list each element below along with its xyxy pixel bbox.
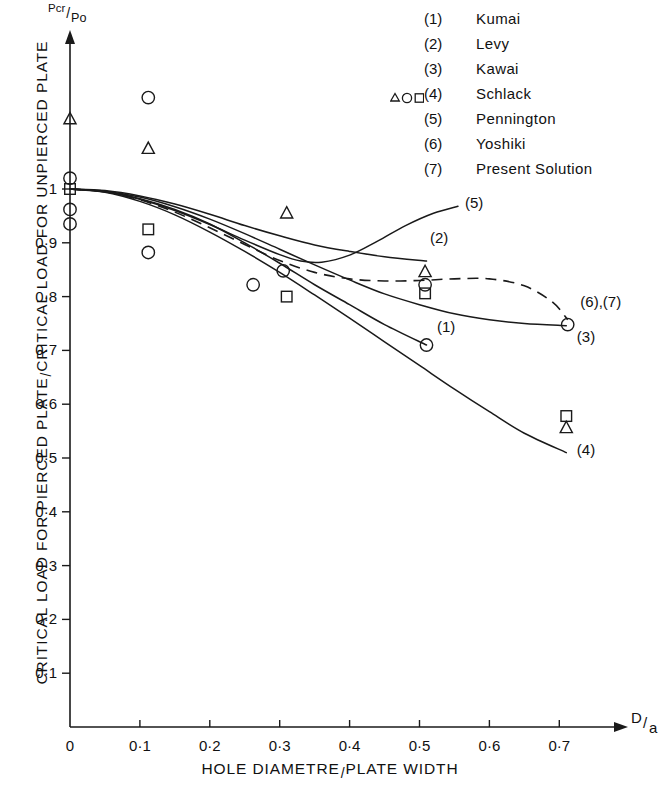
data-marker-circle bbox=[419, 279, 431, 291]
x-axis-arrow-label: D/a bbox=[631, 709, 658, 736]
data-marker-circle bbox=[247, 279, 259, 291]
legend-item: (2)Levy bbox=[424, 31, 659, 56]
legend-item-label: Kumai bbox=[476, 6, 521, 31]
legend-circle-icon bbox=[402, 93, 411, 102]
legend-item: (7)Present Solution bbox=[424, 156, 659, 181]
data-marker-circle bbox=[142, 91, 154, 103]
legend-item-number: (2) bbox=[424, 31, 458, 56]
x-axis-title-part2: PLATE WIDTH bbox=[346, 760, 459, 777]
x-axis-tick-label: 0·5 bbox=[409, 737, 431, 754]
data-curve bbox=[70, 189, 568, 320]
tick-labels-group: 10·90·80·70·60·50·40·30·20·100·10·20·30·… bbox=[35, 180, 658, 754]
data-marker-circle bbox=[561, 318, 573, 330]
curve-label: (6),(7) bbox=[580, 293, 621, 310]
legend-item-label: Present Solution bbox=[476, 156, 592, 181]
curve-label: (5) bbox=[465, 194, 483, 211]
x-axis-arrow-denominator: a bbox=[649, 719, 658, 736]
y-axis-arrow-denominator: Po bbox=[70, 11, 86, 25]
legend-item-label: Levy bbox=[476, 31, 509, 56]
x-axis-tick-label: 0·4 bbox=[339, 737, 361, 754]
legend-item-label: Pennington bbox=[476, 106, 556, 131]
x-axis-tick-label: 0 bbox=[66, 737, 74, 754]
legend-item-number: (5) bbox=[424, 106, 458, 131]
data-marker-triangle bbox=[419, 265, 431, 276]
x-axis-tick-label: 0·7 bbox=[548, 737, 570, 754]
curve-label: (2) bbox=[430, 229, 448, 246]
data-curve bbox=[70, 189, 458, 263]
x-axis-tick-label: 0·2 bbox=[199, 737, 221, 754]
legend-item: (4)Schlack bbox=[424, 81, 659, 106]
legend-item: (1)Kumai bbox=[424, 6, 659, 31]
legend-item-number: (4) bbox=[424, 81, 458, 106]
legend-item-number: (1) bbox=[424, 6, 458, 31]
legend-item: (6)Yoshiki bbox=[424, 131, 659, 156]
legend-item: (3)Kawai bbox=[424, 56, 659, 81]
x-axis-arrow-slash: / bbox=[643, 714, 648, 731]
x-axis-arrow-numerator: D bbox=[631, 709, 642, 726]
legend-item-label: Yoshiki bbox=[476, 131, 526, 156]
chart-page: 10·90·80·70·60·50·40·30·20·100·10·20·30·… bbox=[0, 0, 661, 795]
data-marker-triangle bbox=[560, 421, 572, 432]
legend-item-label: Schlack bbox=[476, 81, 531, 106]
y-axis-title-slash: / bbox=[39, 372, 55, 378]
legend-square-icon bbox=[415, 94, 423, 102]
curves-group bbox=[70, 189, 568, 453]
legend-item: (5)Pennington bbox=[424, 106, 659, 131]
legend-marker-symbols bbox=[390, 87, 424, 101]
legend-item-label: Kawai bbox=[476, 56, 519, 81]
legend-item-number: (6) bbox=[424, 131, 458, 156]
y-axis-title-part1: CRITICAL LOAD FOR PIERCED PLATE bbox=[33, 378, 50, 685]
x-axis-tick-label: 0·6 bbox=[479, 737, 501, 754]
x-axis-title-part1: HOLE DIAMETRE bbox=[201, 760, 339, 777]
curve-label: (3) bbox=[577, 328, 595, 345]
legend: (1)Kumai(2)Levy(3)Kawai(4)Schlack(5)Penn… bbox=[424, 6, 659, 181]
data-marker-circle bbox=[142, 246, 154, 258]
data-marker-square bbox=[143, 224, 154, 235]
y-axis-title-part2: CRITICAL LOAD FOR UNPIERCED PLATE bbox=[33, 41, 50, 372]
data-curve bbox=[70, 189, 426, 345]
data-marker-square bbox=[281, 291, 292, 302]
curve-label: (4) bbox=[577, 441, 595, 458]
y-axis-arrow-numerator: Pcr bbox=[48, 2, 66, 14]
data-marker-triangle bbox=[142, 142, 154, 153]
legend-item-number: (7) bbox=[424, 156, 458, 181]
curve-label: (1) bbox=[437, 318, 455, 335]
legend-item-number: (3) bbox=[424, 56, 458, 81]
legend-triangle-icon bbox=[391, 94, 400, 102]
data-marker-square bbox=[561, 411, 572, 422]
x-axis-tick-label: 0·3 bbox=[269, 737, 291, 754]
x-axis-arrowhead bbox=[614, 722, 628, 732]
data-curve bbox=[70, 189, 426, 261]
curve-labels-group: (1)(2)(3)(4)(5)(6),(7) bbox=[430, 194, 621, 459]
y-axis-title: CRITICAL LOAD FOR PIERCED PLATE/CRITICAL… bbox=[33, 33, 54, 693]
x-axis-title: HOLE DIAMETRE/PLATE WIDTH bbox=[120, 760, 540, 781]
y-axis-arrowhead bbox=[65, 30, 75, 44]
data-marker-triangle bbox=[281, 207, 293, 218]
x-axis-tick-label: 0·1 bbox=[129, 737, 151, 754]
y-axis-arrow-label: Pcr/Po bbox=[48, 2, 87, 25]
